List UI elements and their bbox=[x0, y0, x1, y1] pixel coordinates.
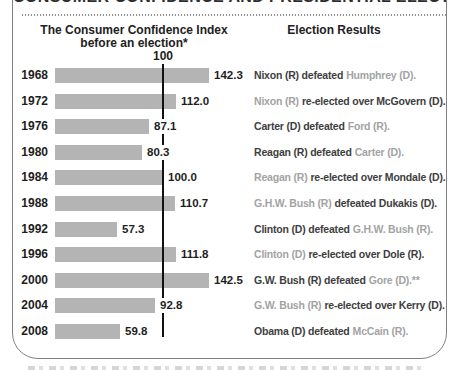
chart-title-partial: CONSUMER CONFIDENCE AND PRESIDENTIAL ELE… bbox=[13, 0, 446, 6]
year-label: 1988 bbox=[14, 196, 48, 211]
value-label: 100.0 bbox=[166, 170, 199, 185]
result-text: Carter (D) defeatedFord (R). bbox=[254, 119, 457, 134]
bar-row: 1992 57.3 Clinton (D) defeatedG.H.W. Bus… bbox=[0, 222, 459, 238]
value-bar bbox=[55, 298, 155, 313]
result-segment: Nixon (R) defeated bbox=[254, 69, 343, 81]
result-segment: McCain (R). bbox=[353, 325, 409, 337]
year-label: 1968 bbox=[14, 68, 48, 83]
dotted-divider bbox=[22, 14, 447, 16]
bar-row: 1984 100.0 Reagan (R)re-elected over Mon… bbox=[0, 170, 459, 186]
result-segment: Ford (R). bbox=[348, 120, 390, 132]
bar-row: 1996 111.8 Clinton (D)re-elected over Do… bbox=[0, 247, 459, 263]
bar-row: 1976 87.1 Carter (D) defeatedFord (R). bbox=[0, 119, 459, 135]
year-label: 1996 bbox=[14, 247, 48, 262]
footnote-cutoff-strip bbox=[28, 366, 423, 370]
left-column-header: The Consumer Confidence Index before an … bbox=[34, 24, 234, 50]
bar-row: 2000 142.5 G.W. Bush (R) defeatedGore (D… bbox=[0, 273, 459, 289]
value-bar bbox=[55, 68, 209, 83]
result-text: Obama (D) defeatedMcCain (R). bbox=[254, 324, 457, 339]
result-segment: Reagan (R) defeated bbox=[254, 146, 352, 158]
bar-row: 1988 110.7 G.H.W. Bush (R)defeated Dukak… bbox=[0, 196, 459, 212]
value-label: 80.3 bbox=[145, 145, 171, 160]
right-column-header: Election Results bbox=[274, 24, 394, 37]
result-text: G.W. Bush (R) defeatedGore (D).** bbox=[254, 273, 457, 288]
value-bar bbox=[55, 247, 176, 262]
result-segment: Clinton (D) bbox=[254, 248, 305, 260]
result-segment: Obama (D) defeated bbox=[254, 325, 350, 337]
bar-row: 1968 142.3 Nixon (R) defeatedHumphrey (D… bbox=[0, 68, 459, 84]
value-bar bbox=[55, 222, 117, 237]
value-bar bbox=[55, 170, 163, 185]
value-bar bbox=[55, 324, 120, 339]
value-label: 142.3 bbox=[212, 68, 245, 83]
result-segment: re-elected over McGovern (D). bbox=[302, 95, 446, 107]
result-segment: G.W. Bush (R) defeated bbox=[254, 274, 366, 286]
result-segment: re-elected over Kerry (D). bbox=[324, 299, 444, 311]
result-text: Clinton (D)re-elected over Dole (R). bbox=[254, 247, 457, 262]
value-label: 92.8 bbox=[158, 298, 184, 313]
value-label: 142.5 bbox=[212, 273, 245, 288]
year-label: 2008 bbox=[14, 324, 48, 339]
result-segment: Carter (D). bbox=[355, 146, 404, 158]
result-segment: Nixon (R) bbox=[254, 95, 299, 107]
result-segment: re-elected over Mondale (D). bbox=[310, 171, 445, 183]
value-label: 59.8 bbox=[123, 324, 149, 339]
result-segment: G.H.W. Bush (R). bbox=[353, 223, 433, 235]
value-label: 87.1 bbox=[152, 119, 178, 134]
value-bar bbox=[55, 119, 149, 134]
result-segment: Reagan (R) bbox=[254, 171, 307, 183]
result-segment: G.W. Bush (R) bbox=[254, 299, 321, 311]
value-label: 57.3 bbox=[120, 222, 146, 237]
result-text: Nixon (R)re-elected over McGovern (D). bbox=[254, 94, 457, 109]
year-label: 1972 bbox=[14, 94, 48, 109]
result-segment: Clinton (D) defeated bbox=[254, 223, 350, 235]
value-label: 112.0 bbox=[179, 94, 211, 109]
result-segment: defeated Dukakis (D). bbox=[335, 197, 438, 209]
bar-row: 2004 92.8 G.W. Bush (R)re-elected over K… bbox=[0, 298, 459, 314]
bar-row: 1980 80.3 Reagan (R) defeatedCarter (D). bbox=[0, 145, 459, 161]
year-label: 1984 bbox=[14, 170, 48, 185]
result-text: Reagan (R)re-elected over Mondale (D). bbox=[254, 170, 457, 185]
result-text: G.H.W. Bush (R)defeated Dukakis (D). bbox=[254, 196, 457, 211]
result-text: G.W. Bush (R)re-elected over Kerry (D). bbox=[254, 298, 457, 313]
value-bar bbox=[55, 145, 142, 160]
result-segment: Humphrey (D). bbox=[346, 69, 416, 81]
year-label: 1980 bbox=[14, 145, 48, 160]
result-segment: Carter (D) defeated bbox=[254, 120, 345, 132]
value-label: 111.8 bbox=[179, 247, 211, 262]
result-text: Nixon (R) defeatedHumphrey (D). bbox=[254, 68, 457, 83]
year-label: 1976 bbox=[14, 119, 48, 134]
result-segment: Gore (D).** bbox=[369, 274, 420, 286]
result-text: Clinton (D) defeatedG.H.W. Bush (R). bbox=[254, 222, 457, 237]
value-bar bbox=[55, 94, 176, 109]
bar-rows: 1968 142.3 Nixon (R) defeatedHumphrey (D… bbox=[0, 68, 459, 348]
bar-row: 1972 112.0 Nixon (R)re-elected over McGo… bbox=[0, 94, 459, 110]
reference-value-label: 100 bbox=[147, 49, 179, 63]
reference-line bbox=[162, 64, 164, 337]
year-label: 1992 bbox=[14, 222, 48, 237]
result-segment: G.H.W. Bush (R) bbox=[254, 197, 332, 209]
result-segment: re-elected over Dole (R). bbox=[308, 248, 424, 260]
year-label: 2004 bbox=[14, 298, 48, 313]
value-label: 110.7 bbox=[178, 196, 210, 211]
result-text: Reagan (R) defeatedCarter (D). bbox=[254, 145, 457, 160]
bar-row: 2008 59.8 Obama (D) defeatedMcCain (R). bbox=[0, 324, 459, 340]
value-bar bbox=[55, 273, 209, 288]
chart-title-clip: CONSUMER CONFIDENCE AND PRESIDENTIAL ELE… bbox=[13, 0, 446, 8]
left-header-line2: before an election* bbox=[34, 37, 234, 50]
year-label: 2000 bbox=[14, 273, 48, 288]
value-bar bbox=[55, 196, 175, 211]
chart-canvas: CONSUMER CONFIDENCE AND PRESIDENTIAL ELE… bbox=[0, 0, 459, 370]
